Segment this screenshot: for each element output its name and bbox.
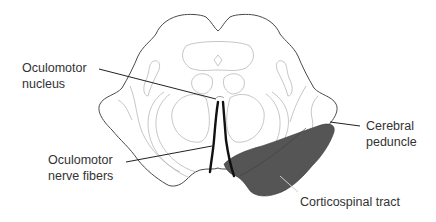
left-peduncle-line-2 (118, 100, 132, 120)
left-oculomotor-nerve-fiber (210, 102, 218, 172)
label-corticospinal-tract: Corticospinal tract (300, 194, 400, 210)
left-red-nucleus (172, 94, 210, 142)
midbrain-diagram (0, 0, 436, 222)
right-lateral-crescent (276, 61, 292, 96)
label-cerebral-peduncle: Cerebral peduncle (366, 118, 417, 150)
right-red-nucleus (227, 94, 265, 142)
label-oculomotor-nucleus: Oculomotor nucleus (22, 60, 87, 92)
oculomotor-nucleus-mark (216, 97, 224, 99)
left-lateral-crescent (144, 61, 160, 96)
right-colliculus (223, 74, 244, 94)
leader-line-oculomotor-nerve-fibers (126, 146, 212, 162)
right-substantia-line-2 (272, 92, 288, 140)
right-peduncle-line (290, 86, 306, 122)
label-oculomotor-nerve-fibers: Oculomotor nerve fibers (48, 152, 113, 184)
left-colliculus (192, 74, 213, 94)
aqueduct-outline (214, 55, 222, 66)
corticospinal-tract-region (224, 124, 334, 196)
leader-line-cerebral-peduncle (330, 122, 360, 126)
